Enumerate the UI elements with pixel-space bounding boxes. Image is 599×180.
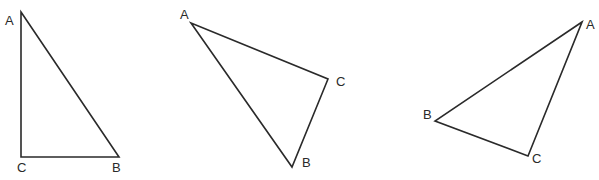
triangle-2-vertex-a-label: A [180, 7, 189, 22]
triangle-2-outline [191, 23, 328, 167]
triangles-diagram: A B C A B C A B C [0, 0, 599, 180]
triangle-3-outline [435, 22, 582, 156]
triangle-1-outline [21, 12, 119, 157]
triangle-2-vertex-b-label: B [302, 155, 311, 170]
triangle-1-vertex-c-label: C [17, 160, 26, 175]
triangle-1-vertex-b-label: B [112, 160, 121, 175]
triangle-3-vertex-a-label: A [586, 17, 595, 32]
triangle-1-vertex-a-label: A [5, 13, 14, 28]
triangle-2: A B C [180, 7, 345, 170]
triangle-3-vertex-c-label: C [532, 151, 541, 166]
triangle-3-vertex-b-label: B [423, 107, 432, 122]
triangle-1: A B C [5, 12, 121, 175]
triangle-2-vertex-c-label: C [336, 74, 345, 89]
triangle-3: A B C [423, 17, 595, 166]
